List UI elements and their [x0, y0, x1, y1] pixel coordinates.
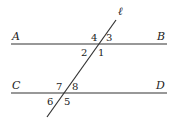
angle-3: 3 [106, 33, 112, 43]
angle-5: 5 [64, 97, 70, 107]
angle-2: 2 [81, 48, 87, 58]
label-d: D [156, 80, 165, 91]
angle-4: 4 [91, 33, 97, 43]
label-c: C [12, 80, 20, 91]
angle-8: 8 [72, 82, 78, 92]
label-b: B [157, 31, 165, 42]
angle-6: 6 [47, 97, 53, 107]
diagram-canvas [0, 0, 174, 125]
angle-1: 1 [98, 48, 104, 58]
label-transversal: ℓ [118, 6, 123, 17]
angle-7: 7 [56, 82, 62, 92]
label-a: A [12, 31, 20, 42]
